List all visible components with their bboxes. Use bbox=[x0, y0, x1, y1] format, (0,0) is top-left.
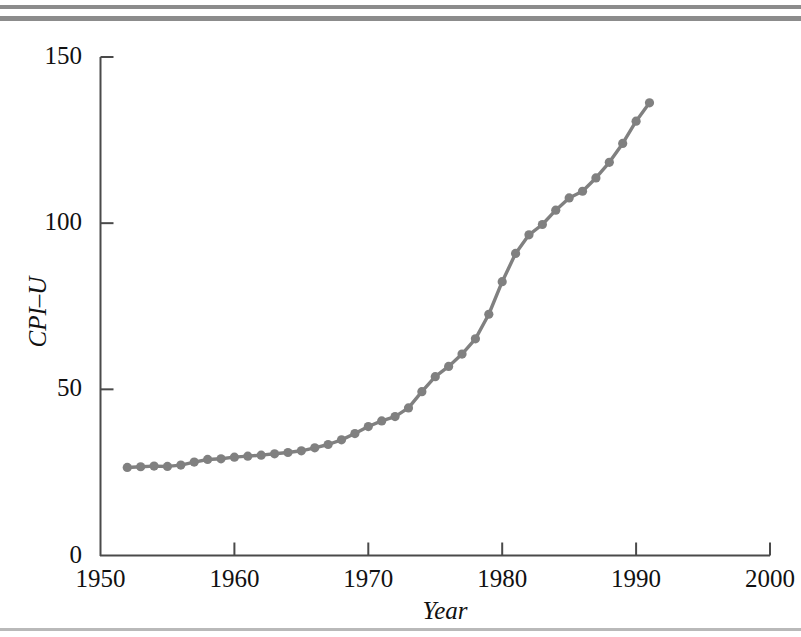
y-tick-label-150: 150 bbox=[20, 43, 82, 68]
data-point bbox=[457, 350, 466, 359]
data-point bbox=[350, 429, 359, 438]
data-point bbox=[618, 139, 627, 148]
data-point bbox=[431, 372, 440, 381]
data-point bbox=[605, 158, 614, 167]
data-point bbox=[310, 443, 319, 452]
data-point bbox=[216, 454, 225, 463]
x-axis-title: Year bbox=[385, 597, 505, 625]
chart-plot-area bbox=[0, 0, 801, 637]
data-point bbox=[524, 230, 533, 239]
data-point bbox=[283, 448, 292, 457]
data-point bbox=[565, 193, 574, 202]
data-point bbox=[390, 412, 399, 421]
data-point bbox=[176, 461, 185, 470]
x-axis-ticks bbox=[234, 543, 770, 556]
x-tick-label-1990: 1990 bbox=[591, 566, 681, 591]
y-tick-label-0: 0 bbox=[20, 542, 82, 567]
data-point bbox=[417, 387, 426, 396]
data-point bbox=[257, 451, 266, 460]
data-point bbox=[203, 455, 212, 464]
data-point bbox=[377, 416, 386, 425]
y-tick-label-50: 50 bbox=[20, 375, 82, 400]
data-point bbox=[632, 117, 641, 126]
data-point bbox=[498, 277, 507, 286]
data-point bbox=[578, 187, 587, 196]
data-point bbox=[149, 462, 158, 471]
page-bottom-rule bbox=[0, 628, 801, 631]
data-point bbox=[163, 462, 172, 471]
data-point bbox=[230, 453, 239, 462]
data-point bbox=[645, 98, 654, 107]
data-point bbox=[297, 446, 306, 455]
data-point bbox=[511, 249, 520, 258]
x-tick-label-1960: 1960 bbox=[189, 566, 279, 591]
x-tick-label-1980: 1980 bbox=[457, 566, 547, 591]
data-point bbox=[190, 458, 199, 467]
x-tick-label-1970: 1970 bbox=[323, 566, 413, 591]
x-tick-label-2000: 2000 bbox=[725, 566, 801, 591]
data-point bbox=[404, 403, 413, 412]
series-line-cpi-u bbox=[127, 103, 649, 468]
y-tick-label-100: 100 bbox=[20, 209, 82, 234]
data-point bbox=[270, 449, 279, 458]
data-point bbox=[591, 173, 600, 182]
cpi-line-chart-figure: 150 100 50 0 1950 1960 1970 1980 1990 20… bbox=[0, 0, 801, 637]
y-axis-ticks bbox=[101, 57, 114, 389]
y-axis-title: CPI–U bbox=[24, 252, 52, 372]
data-point bbox=[471, 334, 480, 343]
data-point bbox=[538, 220, 547, 229]
data-point bbox=[364, 422, 373, 431]
x-tick-label-1950: 1950 bbox=[56, 566, 146, 591]
data-point bbox=[337, 435, 346, 444]
series-markers-cpi-u bbox=[123, 98, 654, 472]
data-point bbox=[484, 310, 493, 319]
data-point bbox=[324, 440, 333, 449]
data-point bbox=[551, 206, 560, 215]
data-point bbox=[243, 452, 252, 461]
data-point bbox=[136, 462, 145, 471]
data-point bbox=[123, 463, 132, 472]
data-point bbox=[444, 362, 453, 371]
